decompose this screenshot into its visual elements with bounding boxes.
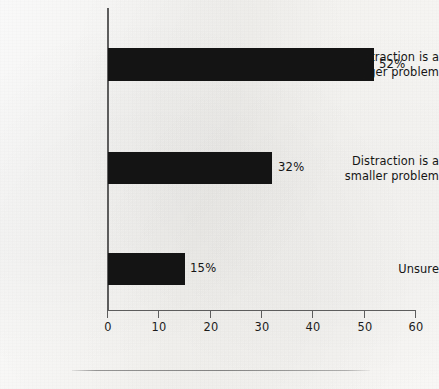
bar-label-distraction-smaller-problem: Distraction is a smaller problem	[335, 154, 439, 184]
x-axis-tick-label-50: 50	[357, 322, 372, 333]
x-axis-tick-50	[364, 311, 365, 318]
bar-unsure[interactable]	[108, 253, 185, 285]
x-axis-tick-label-60: 60	[408, 322, 423, 333]
x-axis-tick-label-30: 30	[254, 322, 269, 333]
x-axis-tick-40	[312, 311, 313, 318]
x-axis-tick-label-40: 40	[305, 322, 320, 333]
bar-value-distraction-bigger-problem: 52%	[379, 59, 405, 71]
x-axis-tick-label-20: 20	[203, 322, 218, 333]
x-axis-tick-label-0: 0	[104, 322, 112, 333]
bar-value-unsure: 15%	[190, 263, 216, 275]
bar-label-unsure: Unsure	[335, 262, 439, 277]
bar-value-distraction-smaller-problem: 32%	[278, 162, 304, 174]
x-axis-tick-30	[261, 311, 262, 318]
x-axis-tick-label-10: 10	[151, 322, 166, 333]
footer-divider-rule	[72, 370, 370, 371]
chart-page: 0 10 20 30 40 50 60 Distraction is a big…	[0, 0, 439, 389]
x-axis-tick-20	[210, 311, 211, 318]
bar-chart-plot-area: 0 10 20 30 40 50 60 Distraction is a big…	[0, 0, 439, 389]
bar-distraction-smaller-problem[interactable]	[108, 152, 272, 184]
bar-label-line-1: Unsure	[335, 262, 439, 277]
x-axis-tick-10	[158, 311, 159, 318]
x-axis-tick-60	[415, 311, 416, 318]
x-axis-tick-0	[107, 311, 108, 318]
bar-label-line-2: smaller problem	[335, 169, 439, 184]
bar-label-line-1: Distraction is a	[335, 154, 439, 169]
